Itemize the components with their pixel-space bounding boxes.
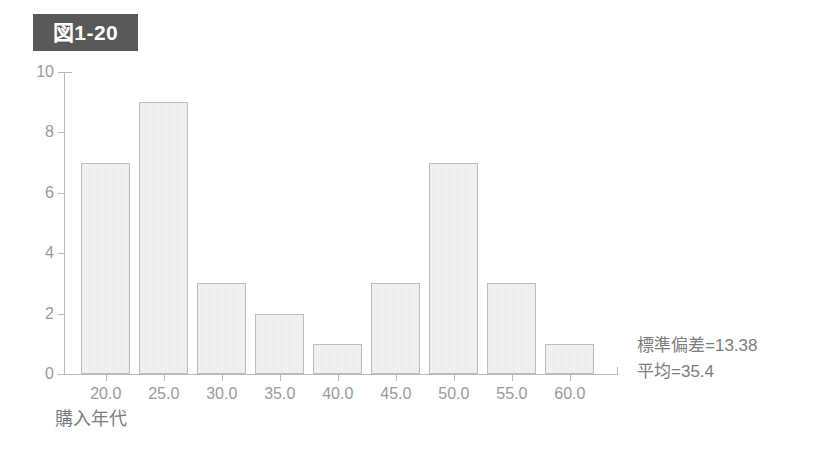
bar — [545, 344, 594, 374]
bar — [429, 163, 478, 374]
y-axis-tick-label: 4 — [26, 245, 54, 261]
std-dev-label: 標準偏差=13.38 — [637, 333, 757, 359]
y-axis-tick-label: 0 — [26, 366, 54, 382]
x-axis-tick — [106, 374, 107, 381]
bar — [371, 283, 420, 374]
bar — [139, 102, 188, 374]
y-axis-tick-label: 8 — [26, 124, 54, 140]
x-axis-tick — [396, 374, 397, 381]
mean-label: 平均=35.4 — [637, 359, 757, 385]
statistics-annotation: 標準偏差=13.38 平均=35.4 — [637, 333, 757, 385]
x-axis-tick — [164, 374, 165, 381]
y-axis-tick-label: 6 — [26, 185, 54, 201]
y-axis-tick-label: 2 — [26, 306, 54, 322]
y-axis-tick — [58, 253, 65, 254]
y-axis-tick — [58, 314, 65, 315]
x-axis-tick — [454, 374, 455, 381]
histogram-chart: 0246810 20.025.030.035.040.045.050.055.0… — [0, 0, 825, 454]
y-axis-tick — [58, 374, 65, 375]
y-axis-line — [64, 72, 65, 375]
bar — [313, 344, 362, 374]
y-axis-tick — [58, 193, 65, 194]
y-axis-top-cap — [64, 72, 72, 73]
x-axis-line — [64, 374, 618, 375]
x-axis-title: 購入年代 — [55, 410, 127, 428]
x-axis-tick — [280, 374, 281, 381]
x-axis-right-cap — [617, 367, 618, 375]
bar — [255, 314, 304, 374]
bar — [197, 283, 246, 374]
x-axis-tick — [512, 374, 513, 381]
x-axis-tick-label: 60.0 — [535, 386, 605, 402]
x-axis-tick — [222, 374, 223, 381]
y-axis-tick — [58, 132, 65, 133]
y-axis-tick-label: 10 — [26, 64, 54, 80]
bar — [487, 283, 536, 374]
x-axis-tick — [338, 374, 339, 381]
x-axis-tick — [570, 374, 571, 381]
bar — [81, 163, 130, 374]
y-axis-tick — [58, 72, 65, 73]
